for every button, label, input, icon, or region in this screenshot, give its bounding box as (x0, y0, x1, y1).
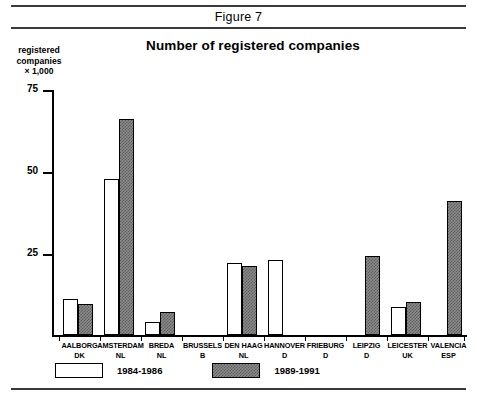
legend-swatch-white (55, 363, 103, 378)
y-axis-label-line3: × 1,000 (4, 66, 74, 77)
bar-leicester-uk-1989-1991 (406, 302, 421, 335)
bar-aalborg-dk-1984-1986 (63, 299, 78, 335)
legend-label-1984-1986: 1984-1986 (117, 365, 162, 376)
y-axis-label-line2: companies (4, 56, 74, 67)
legend-swatch-gray (212, 363, 260, 378)
legend-label-1989-1991: 1989-1991 (274, 365, 319, 376)
bar-den-haag-nl-1989-1991 (242, 266, 257, 335)
bar-amsterdam-nl-1989-1991 (119, 119, 134, 335)
chart-title: Number of registered companies (88, 38, 418, 53)
bar-valencia-esp-1989-1991 (447, 201, 462, 335)
bar-breda-nl-1989-1991 (160, 312, 175, 335)
figure-header: Figure 7 (11, 5, 466, 29)
bar-breda-nl-1984-1986 (145, 322, 160, 335)
x-label-valencia: VALENCIAESP (420, 341, 477, 360)
y-tick-label-50: 50 (10, 165, 38, 176)
chart-legend: 1984-1986 1989-1991 (55, 361, 320, 379)
bottom-divider (11, 388, 466, 390)
bar-aalborg-dk-1989-1991 (78, 304, 93, 335)
bar-leipzig-d-1989-1991 (365, 256, 380, 335)
bar-leicester-uk-1984-1986 (391, 307, 406, 335)
bar-hannover-d-1984-1986 (268, 260, 283, 335)
figure-label: Figure 7 (215, 10, 262, 24)
y-axis-label-line1: registered (4, 45, 74, 56)
chart-container: Number of registered companies registere… (0, 29, 477, 377)
y-axis-label: registered companies × 1,000 (4, 45, 74, 77)
y-tick-label-75: 75 (10, 83, 38, 94)
y-tick-label-25: 25 (10, 247, 38, 258)
legend-item-1984-1986: 1984-1986 (55, 363, 162, 378)
bar-den-haag-nl-1984-1986 (227, 263, 242, 335)
bar-amsterdam-nl-1984-1986 (104, 179, 119, 335)
legend-item-1989-1991: 1989-1991 (212, 363, 319, 378)
plot-area: 75 50 25 (52, 84, 467, 336)
x-axis-line (52, 335, 467, 337)
bars-layer (52, 84, 467, 335)
